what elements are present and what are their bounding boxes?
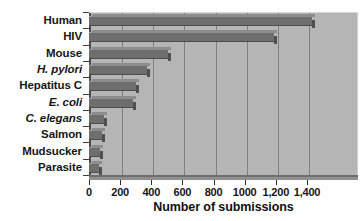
y-axis-tick [83,77,89,78]
y-axis-tick [83,142,89,143]
x-axis-tick-label: 600 [174,186,192,198]
y-axis-tick [83,94,89,95]
y-axis-tick [83,45,89,46]
x-axis-tick-label: 400 [142,186,160,198]
bar-hiv [89,32,274,42]
category-label: Hepatitus C [19,77,82,93]
y-axis-tick [83,61,89,62]
x-axis-tick-label: 1000 [233,186,257,198]
category-axis: HumanHIVMouseH. pyloriHepatitus CE. coli… [0,11,86,175]
category-label: H. pylori [37,61,82,77]
x-axis-tick-label: 1,200 [263,186,290,198]
category-label: C. elegans [25,110,82,126]
x-axis-tick-label: 800 [205,186,223,198]
y-axis-tick [83,175,89,176]
category-label: Mouse [46,45,82,61]
category-label: Human [44,12,82,28]
y-axis-tick [83,159,89,160]
x-axis-tick [276,180,277,185]
category-label: Parasite [38,159,82,175]
x-axis-tick [120,180,121,185]
bar-human [89,16,312,26]
x-axis-title: Number of submissions [89,200,358,214]
bar-c-elegans [89,114,104,124]
gridline [309,12,310,175]
bar-h-pylori [89,65,147,75]
bar-mudsucker [89,147,100,157]
plot-floor-3d [89,175,358,180]
y-axis-tick [83,28,89,29]
gridline [278,12,279,175]
x-axis-tick-label: 0 [86,186,92,198]
category-label: HIV [63,28,82,44]
bar-e-coli [89,98,133,108]
x-axis-tick [89,180,90,185]
bar-salmon [89,130,102,140]
x-axis-tick [307,180,308,185]
y-axis-tick [83,110,89,111]
category-label: Mudsucker [22,143,82,159]
bar-mouse [89,49,168,59]
bar-chart: HumanHIVMouseH. pyloriHepatitus CE. coli… [0,0,364,221]
x-axis-tick-label: 1,400 [294,186,321,198]
x-axis-tick [214,180,215,185]
x-axis-tick [245,180,246,185]
category-label: Salmon [41,126,82,142]
category-label: E. coli [49,94,82,110]
x-axis-tick [182,180,183,185]
bar-parasite [89,163,99,173]
y-axis-tick [83,126,89,127]
x-axis-tick [151,180,152,185]
bar-hepatitus-c [89,81,136,91]
y-axis-tick [83,12,89,13]
x-axis-tick-label: 200 [111,186,129,198]
